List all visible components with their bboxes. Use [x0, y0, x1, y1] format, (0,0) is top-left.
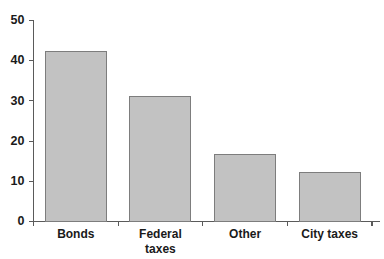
- bar-group: [45, 52, 106, 222]
- chart-canvas: 01020304050BondsFederaltaxesOtherCity ta…: [0, 0, 384, 259]
- bar-group: [215, 154, 276, 221]
- bar-federal-taxes: [130, 97, 191, 222]
- bar-other: [215, 154, 276, 221]
- y-axis-tick-label: 50: [11, 13, 25, 27]
- x-axis-category-label: Federal: [139, 227, 182, 241]
- y-axis-tick-label: 30: [11, 94, 25, 108]
- bar-chart: 01020304050BondsFederaltaxesOtherCity ta…: [0, 0, 384, 259]
- x-axis-category-label: Other: [229, 227, 261, 241]
- y-axis-tick-label: 0: [18, 214, 25, 228]
- bar-city-taxes: [299, 172, 360, 221]
- y-axis-tick-label: 20: [11, 134, 25, 148]
- x-axis-category-label: City taxes: [301, 227, 358, 241]
- x-axis-category-label: taxes: [145, 242, 176, 256]
- bar-group: [299, 172, 360, 221]
- x-axis-category-label: Bonds: [57, 227, 95, 241]
- bar-group: [130, 97, 191, 222]
- y-axis-tick-label: 40: [11, 53, 25, 67]
- bar-bonds: [45, 52, 106, 222]
- y-axis-tick-label: 10: [11, 174, 25, 188]
